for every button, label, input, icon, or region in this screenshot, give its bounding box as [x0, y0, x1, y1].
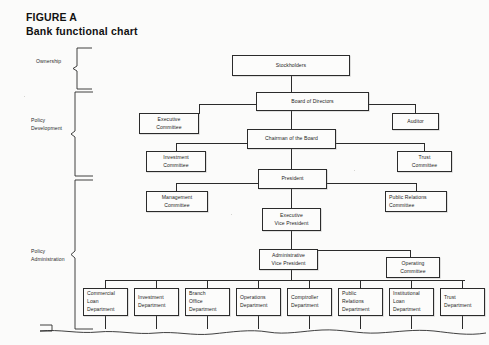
node-stockholders[interactable]: Stockholders: [232, 55, 350, 76]
node-comptroller-department[interactable]: Comptroller Department: [287, 288, 332, 316]
connector-president-mgmt-cmte-h: [176, 183, 262, 184]
figure-label: FIGURE A: [26, 11, 138, 25]
node-operating-committee[interactable]: Operating Committee: [386, 257, 440, 278]
node-label: Auditor: [407, 118, 424, 126]
dept-stub-5: [309, 280, 310, 288]
node-label-line1: Investment: [163, 154, 189, 162]
node-chairman-of-the-board[interactable]: Chairman of the Board: [247, 129, 336, 149]
dept-tail-1: [105, 316, 106, 329]
node-label-line2: Department: [291, 302, 318, 310]
node-label: Chairman of the Board: [265, 135, 318, 143]
node-label-line1: Commercial: [87, 290, 115, 298]
node-label-line1: Operating: [401, 260, 424, 268]
connector-president-exec-vp: [291, 189, 292, 208]
dept-tail-6: [360, 316, 361, 329]
node-label-line2: Committee: [164, 202, 189, 210]
node-president[interactable]: President: [258, 169, 327, 189]
node-executive-vice-president[interactable]: Executive Vice President: [262, 208, 321, 231]
node-management-committee[interactable]: Management Committee: [146, 191, 208, 212]
node-label-line2: Committee: [412, 162, 437, 170]
connector-admin-vp-oper-cmte-h: [318, 250, 411, 251]
node-label-line1: Executive: [158, 116, 181, 124]
node-commercial-loan-department[interactable]: Commercial Loan Department: [83, 288, 128, 316]
node-label-line1: Executive: [280, 212, 303, 220]
node-label-line3: Department: [393, 306, 420, 314]
node-label-line1: Investment: [138, 294, 164, 302]
connector-president-pubrel-cmte-h: [320, 183, 417, 184]
node-public-relations-committee[interactable]: Public Relations Committee: [385, 191, 447, 212]
dept-tail-8: [462, 316, 463, 329]
dept-stub-7: [411, 280, 412, 288]
node-label-line2: Committee: [156, 124, 181, 132]
node-label-line1: Institutional: [393, 290, 420, 298]
node-label-line1: Comptroller: [291, 294, 318, 302]
node-label-line1: Public Relations: [389, 194, 427, 202]
connector-chairman-trust-cmte-h: [326, 143, 425, 144]
figure-title: Bank functional chart: [26, 25, 138, 39]
node-investment-committee[interactable]: Investment Committee: [146, 151, 206, 172]
node-trust-committee[interactable]: Trust Committee: [397, 151, 452, 172]
dept-stub-3: [207, 280, 208, 288]
node-executive-committee[interactable]: Executive Committee: [139, 113, 199, 134]
node-label-line3: Department: [87, 306, 114, 314]
dept-tail-5: [309, 316, 310, 329]
node-label-line1: Public: [342, 290, 356, 298]
dept-tail-3: [207, 316, 208, 329]
scan-speck: [24, 96, 25, 97]
node-label-line2: Department: [240, 302, 267, 310]
dept-stub-6: [360, 280, 361, 288]
node-label-line1: Operations: [240, 294, 266, 302]
node-label-line1: Branch: [189, 290, 206, 298]
node-label-line2: Vice President: [275, 220, 309, 228]
node-institutional-loan-department[interactable]: Institutional Loan Department: [389, 288, 434, 316]
node-label-line2: Vice President: [272, 260, 306, 268]
node-operations-department[interactable]: Operations Department: [236, 288, 281, 316]
connector-board-chairman: [291, 111, 292, 129]
node-branch-office-department[interactable]: Branch Office Department: [185, 288, 230, 316]
dept-tail-7: [411, 316, 412, 329]
dept-stub-2: [156, 280, 157, 288]
dept-stub-8: [462, 280, 463, 288]
dept-tail-2: [156, 316, 157, 329]
connector-exec-vp-admin-vp: [291, 231, 292, 249]
dept-stub-4: [258, 280, 259, 288]
node-label-line2: Committee: [400, 268, 425, 276]
node-label-line2: Department: [444, 302, 471, 310]
connector-board-exec-cmte-v: [199, 104, 200, 114]
node-auditor[interactable]: Auditor: [392, 113, 439, 130]
connector-stockholders-board: [291, 76, 292, 92]
scan-speck: [354, 170, 355, 171]
node-label-line1: Management: [162, 194, 193, 202]
node-investment-department[interactable]: Investment Department: [134, 288, 179, 316]
scan-speck: [231, 214, 232, 215]
node-label: President: [281, 175, 303, 183]
node-label-line2: Loan: [87, 298, 99, 306]
node-label-line3: Department: [342, 306, 369, 314]
connector-chairman-invest-cmte-h: [176, 143, 256, 144]
node-label: Board of Directors: [291, 98, 333, 106]
node-label-line2: Department: [138, 302, 165, 310]
dept-tail-4: [258, 316, 259, 329]
page-title: FIGURE A Bank functional chart: [26, 11, 138, 39]
node-label-line2: Relations: [342, 298, 364, 306]
node-label-line2: Office: [189, 298, 203, 306]
node-label-line2: Committee: [163, 162, 188, 170]
connector-chairman-president: [291, 149, 292, 169]
brace-ownership: [72, 47, 94, 90]
node-label-line2: Committee: [389, 202, 414, 210]
node-label-line2: Loan: [393, 298, 405, 306]
node-board-of-directors[interactable]: Board of Directors: [256, 92, 369, 111]
node-label: Stockholders: [276, 62, 306, 70]
node-trust-department[interactable]: Trust Department: [440, 288, 485, 316]
node-label-line3: Department: [189, 306, 216, 314]
node-label-line1: Administrative: [272, 252, 305, 260]
node-label-line1: Trust: [444, 294, 456, 302]
node-public-relations-department[interactable]: Public Relations Department: [338, 288, 383, 316]
figure-page: FIGURE A Bank functional chart Ownership…: [0, 0, 489, 345]
node-label-line1: Trust: [419, 154, 431, 162]
node-administrative-vice-president[interactable]: Administrative Vice President: [259, 249, 318, 270]
brace-policy-development: [70, 91, 94, 177]
dept-stub-1: [105, 280, 106, 288]
connector-board-exec-cmte-h: [199, 104, 262, 105]
